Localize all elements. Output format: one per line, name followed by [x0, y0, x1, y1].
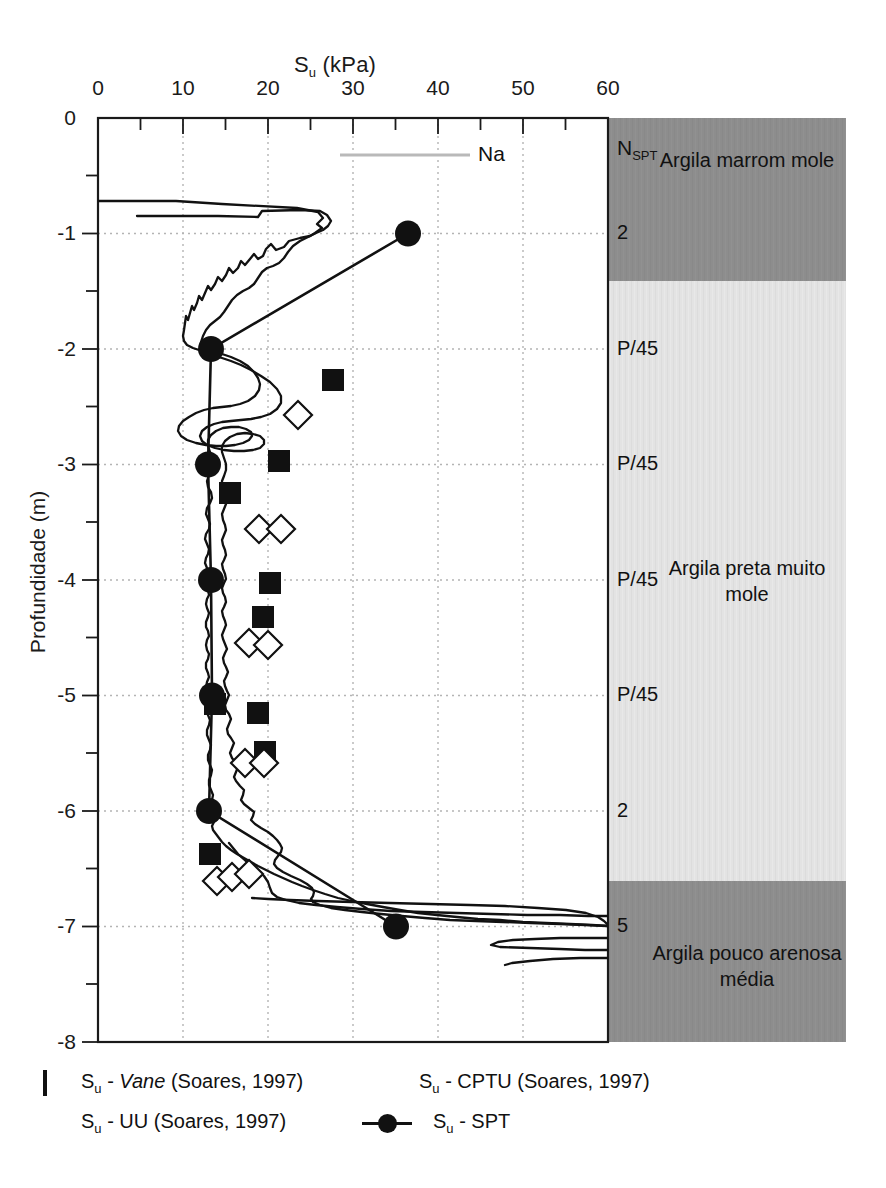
y-tick-8: -8: [22, 1030, 76, 1054]
soil-layer-label-3: Argila pouco arenosa média: [648, 940, 846, 992]
spt-point: [383, 914, 409, 940]
y-axis-ticks: [82, 176, 98, 1043]
soil-layer-label-2: Argila preta muito mole: [648, 555, 846, 607]
y-tick-5: -5: [22, 683, 76, 707]
uu-point: [204, 693, 226, 715]
y-tick-3: -3: [22, 452, 76, 476]
legend: Su - Vane (Soares, 1997) Su - CPTU (Soar…: [38, 1070, 758, 1150]
legend-item-spt[interactable]: Su - SPT: [362, 1110, 510, 1136]
legend-label-cptu: Su - CPTU (Soares, 1997): [419, 1070, 650, 1096]
legend-item-uu[interactable]: Su - UU (Soares, 1997): [38, 1110, 286, 1136]
nspt-value-7: 5: [617, 914, 628, 937]
legend-item-cptu[interactable]: Su - CPTU (Soares, 1997): [362, 1070, 650, 1096]
soil-layer-label-1: Argila marrom mole: [648, 147, 846, 173]
y-tick-1: -1: [22, 221, 76, 245]
legend-row-2: Su - UU (Soares, 1997) Su - SPT: [38, 1110, 758, 1150]
x-tick-60: 60: [578, 76, 638, 100]
uu-point: [268, 450, 290, 472]
y-tick-6: -6: [22, 799, 76, 823]
legend-label-spt: Su - SPT: [433, 1110, 510, 1136]
figure-root: Su (kPa) Profundidade (m) 0 10 20 30 40 …: [0, 0, 886, 1188]
uu-point: [199, 843, 221, 865]
legend-label-vane: Su - Vane (Soares, 1997): [81, 1070, 303, 1096]
spt-point: [198, 567, 224, 593]
y-tick-2: -2: [22, 337, 76, 361]
line-icon: [362, 1072, 396, 1094]
y-tick-7: -7: [22, 914, 76, 938]
spt-point: [196, 798, 222, 824]
uu-point: [259, 572, 281, 594]
x-tick-50: 50: [493, 76, 553, 100]
nspt-value-5: P/45: [617, 683, 658, 706]
spt-point: [198, 336, 224, 362]
filled-circle-line-icon: [362, 1112, 412, 1134]
legend-label-uu: Su - UU (Soares, 1997): [81, 1110, 286, 1136]
nspt-value-2: P/45: [617, 337, 658, 360]
uu-point: [219, 482, 241, 504]
y-tick-0: 0: [22, 106, 76, 130]
y-tick-4: -4: [22, 568, 76, 592]
x-tick-20: 20: [238, 76, 298, 100]
x-axis-title-text: Su (kPa): [294, 52, 376, 77]
uu-point: [322, 369, 344, 391]
nspt-value-6: 2: [617, 799, 628, 822]
nspt-value-1: 2: [617, 221, 628, 244]
x-tick-40: 40: [408, 76, 468, 100]
water-table-label: Na: [478, 142, 505, 166]
open-diamond-icon: [38, 1072, 72, 1094]
legend-row-1: Su - Vane (Soares, 1997) Su - CPTU (Soar…: [38, 1070, 758, 1110]
legend-item-vane[interactable]: Su - Vane (Soares, 1997): [38, 1070, 303, 1096]
x-tick-30: 30: [323, 76, 383, 100]
x-tick-0: 0: [68, 76, 128, 100]
nspt-value-3: P/45: [617, 452, 658, 475]
spt-point: [195, 452, 221, 478]
uu-point: [247, 702, 269, 724]
uu-point: [252, 606, 274, 628]
filled-square-icon: [38, 1112, 72, 1134]
spt-point: [395, 221, 421, 247]
x-tick-10: 10: [153, 76, 213, 100]
